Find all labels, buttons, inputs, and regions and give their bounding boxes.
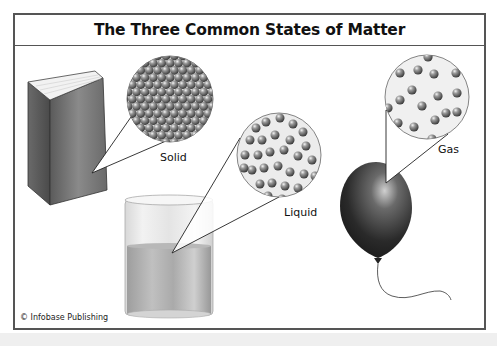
particle [212, 124, 221, 133]
particle [248, 166, 257, 175]
particle [174, 102, 183, 111]
particle [216, 102, 225, 111]
particle [200, 59, 209, 68]
particle [286, 168, 295, 177]
particle [187, 95, 196, 104]
particle [212, 109, 221, 118]
particle [289, 120, 298, 129]
particle [409, 122, 418, 131]
particle [204, 95, 213, 104]
particle [124, 73, 133, 82]
particle [204, 52, 213, 61]
particle [183, 73, 192, 82]
particle [200, 102, 209, 111]
particle [204, 109, 213, 118]
particle [200, 131, 209, 140]
particle [216, 73, 225, 82]
particle [120, 52, 129, 61]
particle [212, 66, 221, 75]
particle [183, 59, 192, 68]
particle [166, 88, 175, 97]
particle [158, 131, 167, 140]
particle [200, 117, 209, 126]
particle [137, 109, 146, 118]
particle [452, 88, 461, 97]
gas-label: Gas [438, 143, 459, 156]
particle [430, 115, 439, 124]
particle [137, 81, 146, 90]
particle [132, 102, 141, 111]
particle [145, 95, 154, 104]
particle [120, 81, 129, 90]
particle [158, 102, 167, 111]
particle [128, 95, 137, 104]
particle [153, 109, 162, 118]
particle [141, 102, 150, 111]
particle [260, 164, 269, 173]
particle [137, 52, 146, 61]
particle [179, 66, 188, 75]
particle [162, 124, 171, 133]
particle [246, 136, 255, 145]
particle [141, 73, 150, 82]
particle [137, 95, 146, 104]
particle [300, 170, 309, 179]
particle [195, 52, 204, 61]
particle [441, 108, 450, 117]
particle [132, 88, 141, 97]
liquid-label: Liquid [284, 206, 317, 219]
particle [170, 138, 179, 147]
particle [262, 118, 271, 127]
particle [187, 138, 196, 147]
particle [383, 103, 392, 112]
balloon-illustration [340, 162, 451, 300]
particle [191, 131, 200, 140]
particle [187, 52, 196, 61]
particle [268, 179, 277, 188]
particle [195, 95, 204, 104]
particle [179, 124, 188, 133]
particle [429, 69, 438, 78]
particle [407, 85, 416, 94]
particle [187, 81, 196, 90]
particle [204, 124, 213, 133]
particle [174, 59, 183, 68]
particle [452, 107, 461, 116]
particle [216, 88, 225, 97]
particle [170, 66, 179, 75]
solid-callout [92, 52, 225, 173]
particle [183, 117, 192, 126]
particle [179, 109, 188, 118]
particle [174, 88, 183, 97]
particle [200, 73, 209, 82]
particle [195, 109, 204, 118]
particle [294, 152, 303, 161]
particle [166, 59, 175, 68]
particle [166, 131, 175, 140]
particle [212, 138, 221, 147]
particle [170, 81, 179, 90]
particle [187, 124, 196, 133]
particle [191, 117, 200, 126]
particle [252, 124, 261, 133]
particle [274, 162, 283, 171]
particle [149, 102, 158, 111]
particle [266, 148, 275, 157]
particle [216, 131, 225, 140]
particle [162, 66, 171, 75]
particle [240, 164, 249, 173]
gas-callout [383, 52, 469, 183]
particle [141, 117, 150, 126]
solid-label: Solid [160, 151, 187, 164]
particle [208, 102, 217, 111]
particle [149, 88, 158, 97]
particle [216, 117, 225, 126]
illustration [0, 0, 497, 346]
particle [183, 131, 192, 140]
particle [195, 81, 204, 90]
particle [395, 95, 404, 104]
particle [200, 88, 209, 97]
particle [183, 88, 192, 97]
particle [145, 52, 154, 61]
particle [212, 81, 221, 90]
